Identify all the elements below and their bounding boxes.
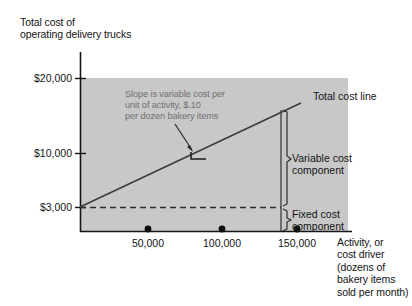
y-tick-label-3000: $3,000	[8, 201, 72, 213]
variable-cost-component-label: Variable costcomponent	[292, 152, 352, 177]
x-point-50000	[145, 226, 152, 233]
fixed-cost-component-label: Fixed costcomponent	[292, 208, 344, 233]
y-axis-title: Total cost ofoperating delivery trucks	[20, 16, 131, 41]
x-point-100000	[219, 226, 226, 233]
cost-behavior-chart: Total cost ofoperating delivery trucks $…	[0, 0, 412, 306]
y-tick-label-20000: $20,000	[8, 72, 72, 84]
x-tick-label-150000: 150,000	[267, 237, 327, 249]
x-axis-title: Activity, orcost driver(dozens ofbakery …	[337, 236, 408, 298]
slope-annotation-text: Slope is variable cost perunit of activi…	[125, 89, 225, 122]
total-cost-line-label: Total cost line	[313, 90, 377, 102]
x-tick-label-100000: 100,000	[192, 237, 252, 249]
y-tick-label-10000: $10,000	[8, 147, 72, 159]
x-tick-label-50000: 50,000	[118, 237, 178, 249]
